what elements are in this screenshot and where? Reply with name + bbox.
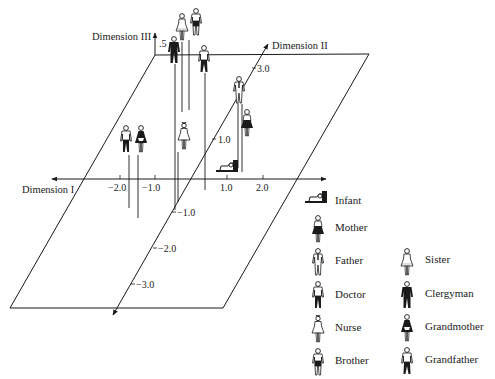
dim2-tick-1: 1.0: [218, 134, 231, 145]
legend-nurse-icon: [312, 316, 324, 343]
legend-label-father: Father: [335, 254, 363, 266]
mother-icon: [241, 110, 253, 136]
dim2-tick-3: 3.0: [257, 63, 270, 74]
legend: Infant Mother Father Doctor Nurse Brothe…: [305, 191, 484, 375]
legend-mother-icon: [312, 216, 324, 242]
dimension-1-label: Dimension I: [22, 184, 75, 195]
grandmother-icon: [135, 126, 147, 152]
legend-label-grandfather: Grandfather: [425, 353, 478, 365]
dim1-tick-2: 2.0: [256, 182, 269, 193]
legend-sister-icon: [401, 249, 413, 275]
legend-father-icon: [313, 249, 324, 275]
father-icon: [234, 77, 245, 103]
legend-label-brother: Brother: [335, 354, 369, 366]
legend-infant-icon: [305, 191, 327, 203]
nurse-icon: [178, 123, 190, 150]
dim1-tick-neg1: −1.0: [142, 182, 160, 193]
legend-brother-icon: [313, 349, 324, 375]
grandfather-icon: [199, 46, 210, 72]
sister-icon: [176, 14, 188, 40]
legend-label-infant: Infant: [335, 194, 361, 206]
dim1-tick-1: 1.0: [220, 182, 233, 193]
infant-icon: [216, 160, 238, 172]
legend-grandmother-icon: [401, 315, 413, 341]
legend-clergyman-icon: [401, 282, 413, 308]
dimension-2-label: Dimension II: [272, 40, 328, 51]
mds-diagram: −2.0 −1.0 1.0 2.0 Dimension I 3.0 1.0 −1…: [0, 0, 495, 379]
doctor-icon: [121, 126, 132, 152]
legend-label-sister: Sister: [425, 253, 450, 265]
diagram-canvas: −2.0 −1.0 1.0 2.0 Dimension I 3.0 1.0 −1…: [0, 0, 495, 379]
legend-label-nurse: Nurse: [335, 321, 361, 333]
legend-label-grandmother: Grandmother: [425, 320, 484, 332]
legend-label-doctor: Doctor: [335, 288, 366, 300]
dim2-tick-neg2: −2.0: [158, 243, 176, 254]
brother-icon: [191, 9, 202, 35]
legend-doctor-icon: [313, 282, 324, 308]
dim3-tick: .5: [159, 38, 167, 49]
dim1-tick-neg2: −2.0: [108, 182, 126, 193]
legend-label-clergyman: Clergyman: [425, 287, 474, 299]
legend-grandfather-icon: [402, 348, 413, 374]
clergyman-icon: [168, 37, 180, 63]
dim2-tick-neg1: −1.0: [177, 207, 195, 218]
dim2-tick-neg3: −3.0: [136, 279, 154, 290]
dimension-3-label: Dimension III: [92, 31, 152, 42]
legend-label-mother: Mother: [335, 221, 368, 233]
